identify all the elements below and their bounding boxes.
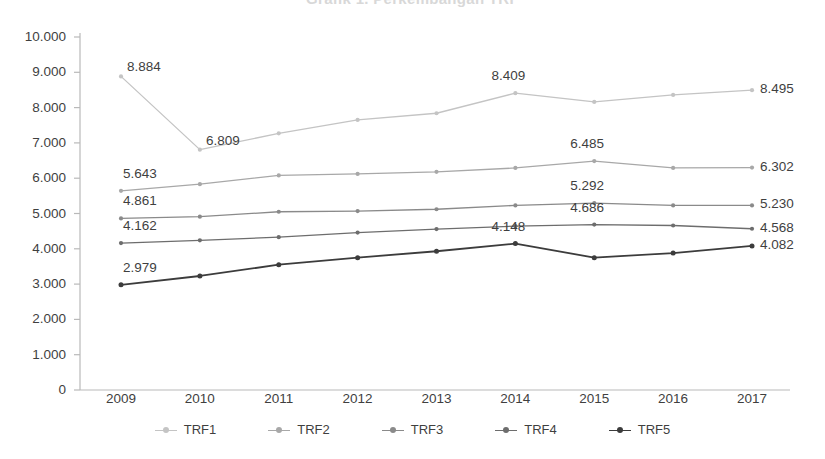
series-point — [513, 241, 518, 246]
chart-series-trf2 — [119, 159, 754, 193]
x-axis-tick-label: 2011 — [249, 392, 309, 406]
series-point — [355, 255, 360, 260]
y-axis-tick-label: 8.000 — [8, 101, 66, 115]
data-point-label: 4.082 — [760, 238, 794, 252]
x-axis-tick-label: 2017 — [722, 392, 782, 406]
legend-key-icon — [609, 426, 631, 435]
chart-series-trf3 — [119, 201, 754, 220]
chart-legend: TRF1TRF2TRF3TRF4TRF5 — [0, 419, 825, 441]
data-point-label: 5.643 — [123, 167, 157, 181]
series-point — [750, 88, 754, 92]
series-point — [198, 238, 202, 242]
series-point — [434, 111, 438, 115]
series-point — [356, 230, 360, 234]
chart-page: Grafik 1. Perkembangan TRF 10.0009.0008.… — [0, 0, 825, 459]
legend-key-icon — [155, 426, 177, 435]
legend-label: TRF4 — [524, 423, 557, 437]
series-point — [750, 165, 754, 169]
series-point — [513, 203, 517, 207]
y-axis-tick-label: 4.000 — [8, 242, 66, 256]
legend-item-trf1[interactable]: TRF1 — [155, 423, 217, 437]
legend-key-icon — [268, 426, 290, 435]
legend-item-trf4[interactable]: TRF4 — [495, 423, 557, 437]
series-line — [121, 161, 752, 191]
series-point — [119, 189, 123, 193]
series-point — [434, 170, 438, 174]
series-point — [356, 172, 360, 176]
legend-label: TRF3 — [411, 423, 444, 437]
series-point — [513, 166, 517, 170]
data-point-label: 4.686 — [570, 201, 604, 215]
series-point — [750, 203, 754, 207]
data-point-label: 5.292 — [570, 179, 604, 193]
data-point-label: 6.485 — [570, 137, 604, 151]
data-point-label: 8.884 — [127, 60, 161, 74]
legend-item-trf5[interactable]: TRF5 — [609, 423, 671, 437]
series-point — [198, 148, 202, 152]
y-axis-tick-label: 5.000 — [8, 207, 66, 221]
data-point-label: 2.979 — [123, 261, 157, 275]
series-point — [277, 173, 281, 177]
series-point — [750, 227, 754, 231]
legend-label: TRF2 — [297, 423, 330, 437]
data-point-label: 4.861 — [123, 194, 157, 208]
data-point-label: 4.568 — [760, 221, 794, 235]
series-point — [276, 262, 281, 267]
data-point-label: 4.162 — [123, 219, 157, 233]
series-point — [356, 209, 360, 213]
series-point — [671, 223, 675, 227]
series-point — [198, 182, 202, 186]
series-point — [277, 131, 281, 135]
series-point — [356, 118, 360, 122]
data-point-label: 4.148 — [491, 220, 525, 234]
series-point — [750, 243, 755, 248]
y-axis-tick-label: 7.000 — [8, 136, 66, 150]
x-axis-tick-label: 2013 — [407, 392, 467, 406]
data-point-label: 8.409 — [491, 69, 525, 83]
series-point — [671, 251, 676, 256]
data-point-label: 5.230 — [760, 197, 794, 211]
series-point — [671, 93, 675, 97]
chart-series-trf5 — [119, 241, 755, 287]
legend-key-icon — [382, 426, 404, 435]
series-point — [119, 74, 123, 78]
legend-item-trf2[interactable]: TRF2 — [268, 423, 330, 437]
series-point — [434, 227, 438, 231]
data-point-label: 6.302 — [760, 160, 794, 174]
series-point — [277, 235, 281, 239]
series-point — [592, 100, 596, 104]
line-chart: 10.0009.0008.0007.0006.0005.0004.0003.00… — [0, 0, 825, 459]
series-point — [277, 210, 281, 214]
series-point — [592, 255, 597, 260]
x-axis-tick-label: 2015 — [564, 392, 624, 406]
x-axis-tick-label: 2016 — [643, 392, 703, 406]
data-point-label: 8.495 — [760, 82, 794, 96]
x-axis-tick-label: 2014 — [485, 392, 545, 406]
y-axis-tick-label: 10.000 — [8, 30, 66, 44]
legend-item-trf3[interactable]: TRF3 — [382, 423, 444, 437]
x-axis-tick-label: 2012 — [328, 392, 388, 406]
chart-series-layer — [119, 74, 755, 287]
series-point — [434, 249, 439, 254]
series-point — [671, 166, 675, 170]
legend-label: TRF1 — [184, 423, 217, 437]
series-point — [197, 273, 202, 278]
y-axis-tick-label: 6.000 — [8, 171, 66, 185]
series-point — [198, 215, 202, 219]
series-point — [119, 241, 123, 245]
series-point — [119, 282, 124, 287]
y-axis-tick-label: 1.000 — [8, 348, 66, 362]
y-axis-tick-label: 3.000 — [8, 277, 66, 291]
series-point — [592, 159, 596, 163]
y-axis-tick-label: 2.000 — [8, 312, 66, 326]
series-point — [434, 207, 438, 211]
y-axis-tick-label: 9.000 — [8, 65, 66, 79]
x-axis-tick-label: 2009 — [91, 392, 151, 406]
series-point — [671, 203, 675, 207]
x-axis-tick-label: 2010 — [170, 392, 230, 406]
legend-key-icon — [495, 426, 517, 435]
data-point-label: 6.809 — [206, 134, 240, 148]
series-point — [592, 222, 596, 226]
legend-label: TRF5 — [638, 423, 671, 437]
series-point — [513, 91, 517, 95]
